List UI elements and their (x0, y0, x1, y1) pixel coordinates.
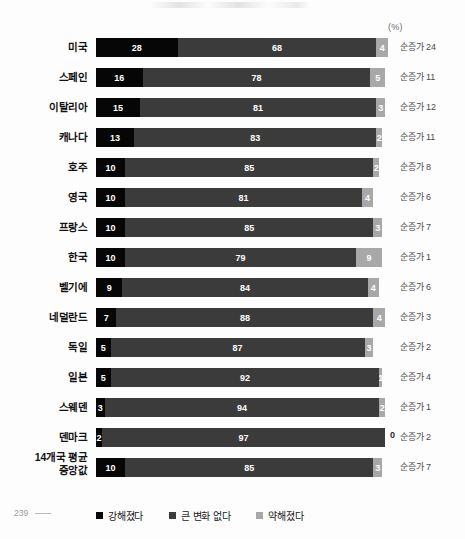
bar-track: 16785 (96, 68, 388, 87)
bar-segment-value: 97 (238, 433, 248, 443)
legend-swatch-icon (169, 512, 176, 519)
bar-track: 297 (96, 428, 388, 447)
row-label-line: 벨기에 (59, 281, 88, 293)
row-label: 스웨덴 (0, 396, 88, 419)
bar-row: 한국10799순증가 1 (0, 246, 465, 276)
bar-segment-strong: 10 (96, 188, 125, 207)
bar-segment-weakened: 9 (356, 248, 382, 267)
bar-row: 스페인16785순증가 11 (0, 66, 465, 96)
net-increase-annotation: 순증가 6 (400, 190, 431, 203)
legend-item: 큰 변화 없다 (169, 508, 230, 523)
row-label: 14개국 평균중앙값 (0, 450, 88, 487)
bar-track: 15813 (96, 98, 388, 117)
bar-segment-no-change: 83 (134, 128, 376, 147)
row-label-line: 일본 (68, 371, 88, 383)
bar-row: 캐나다13832순증가 11 (0, 126, 465, 156)
page-number: 239 (14, 508, 28, 518)
row-label-line: 캐나다 (59, 131, 88, 143)
row-label: 덴마크 (0, 426, 88, 449)
net-increase-annotation: 순증가 8 (400, 160, 431, 173)
bar-segment-value: 13 (110, 133, 120, 143)
bar-segment-value: 4 (380, 43, 385, 53)
bar-segment-value: 81 (253, 103, 263, 113)
net-increase-annotation: 순증가 12 (400, 100, 436, 113)
bar-segment-weakened: 4 (362, 188, 374, 207)
legend-swatch-icon (256, 512, 263, 519)
bar-segment-no-change: 79 (125, 248, 356, 267)
bar-segment-weakened: 5 (370, 68, 385, 87)
bar-segment-value: 10 (106, 163, 116, 173)
net-increase-annotation: 순증가 7 (400, 220, 431, 233)
bar-segment-value: 79 (236, 253, 246, 263)
bar-segment-no-change: 97 (102, 428, 385, 447)
bar-track: 10852 (96, 158, 388, 177)
bar-segment-value: 94 (237, 403, 247, 413)
bar-segment-value: 7 (104, 313, 109, 323)
bar-segment-value: 92 (240, 373, 250, 383)
bar-segment-no-change: 84 (122, 278, 367, 297)
row-label: 미국 (0, 36, 88, 59)
row-label-line: 덴마크 (59, 431, 88, 443)
net-increase-annotation: 순증가 2 (400, 340, 431, 353)
bar-segment-strong: 7 (96, 308, 116, 327)
row-label-line: 14개국 평균 (0, 451, 88, 464)
chart-rows: 미국28684순증가 24스페인16785순증가 11이탈리아15813순증가 … (0, 36, 465, 486)
bar-row: 일본5921순증가 4 (0, 366, 465, 396)
bar-segment-no-change: 68 (178, 38, 377, 57)
bar-segment-value: 3 (366, 343, 371, 353)
bar-segment-weakened: 3 (365, 338, 374, 357)
bar-row: 미국28684순증가 24 (0, 36, 465, 66)
bar-segment-strong: 13 (96, 128, 134, 147)
row-label-line: 네덜란드 (49, 311, 88, 323)
row-label-line: 스웨덴 (59, 401, 88, 413)
bar-segment-no-change: 94 (105, 398, 379, 417)
bar-segment-strong: 10 (96, 248, 125, 267)
bar-segment-value: 85 (244, 223, 254, 233)
net-increase-annotation: 순증가 2 (400, 430, 431, 443)
bar-segment-value: 16 (114, 73, 124, 83)
bar-segment-value: 5 (101, 373, 106, 383)
row-label-line: 중앙값 (0, 464, 88, 477)
row-label: 프랑스 (0, 216, 88, 239)
bar-segment-value: 2 (374, 163, 379, 173)
bar-segment-value: 10 (106, 253, 116, 263)
bar-segment-value: 68 (272, 43, 282, 53)
bar-segment-value: 2 (96, 433, 101, 443)
row-label-line: 스페인 (59, 71, 88, 83)
bar-segment-strong: 3 (96, 398, 105, 417)
net-increase-annotation: 순증가 3 (400, 310, 431, 323)
bar-segment-value: 3 (375, 463, 380, 473)
bar-segment-weakened: 2 (379, 398, 385, 417)
bar-segment-weakened-value-outside: 0 (390, 430, 395, 440)
row-label: 일본 (0, 366, 88, 389)
bar-segment-value: 3 (375, 223, 380, 233)
bar-segment-no-change: 81 (125, 188, 362, 207)
bar-segment-value: 81 (238, 193, 248, 203)
bar-track: 28684 (96, 38, 388, 57)
row-label: 스페인 (0, 66, 88, 89)
bar-segment-no-change: 87 (111, 338, 365, 357)
bar-row: 프랑스10853순증가 7 (0, 216, 465, 246)
bar-segment-strong: 9 (96, 278, 122, 297)
bar-segment-value: 10 (106, 223, 116, 233)
bar-segment-value: 88 (240, 313, 250, 323)
row-label: 네덜란드 (0, 306, 88, 329)
legend-label: 강해졌다 (108, 508, 143, 523)
net-increase-annotation: 순증가 11 (400, 70, 435, 83)
bar-segment-value: 84 (240, 283, 250, 293)
bar-segment-value: 9 (366, 253, 371, 263)
net-increase-annotation: 순증가 11 (400, 130, 435, 143)
bar-segment-strong: 10 (96, 218, 125, 237)
bar-track: 5873 (96, 338, 388, 357)
bar-segment-strong: 16 (96, 68, 143, 87)
bar-segment-value: 83 (250, 133, 260, 143)
bar-row: 네덜란드7884순증가 3 (0, 306, 465, 336)
bar-segment-value: 2 (380, 403, 385, 413)
bar-segment-no-change: 92 (111, 368, 380, 387)
bar-segment-no-change: 85 (125, 458, 373, 477)
row-label: 벨기에 (0, 276, 88, 299)
row-label: 캐나다 (0, 126, 88, 149)
legend-label: 큰 변화 없다 (181, 508, 230, 523)
bar-segment-weakened: 4 (368, 278, 380, 297)
bar-segment-value: 5 (375, 73, 380, 83)
